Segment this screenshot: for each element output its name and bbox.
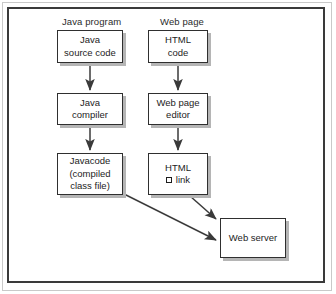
- arrow-htmllink-to-webserver: [190, 196, 216, 219]
- node-line: editor: [166, 109, 190, 122]
- node-html-code: HTML code: [148, 30, 208, 63]
- node-javacode-compiled-class-file: Javacode (compiled class file): [57, 153, 123, 195]
- node-line: HTML: [165, 34, 191, 47]
- node-html-link: HTML link: [148, 153, 208, 195]
- node-line: class file): [70, 180, 110, 193]
- node-line: code: [168, 47, 189, 60]
- column-label-web-page: Web page: [160, 16, 204, 27]
- node-web-page-editor: Web page editor: [148, 93, 208, 125]
- node-java-source-code: Java source code: [57, 30, 123, 63]
- node-line: Javacode: [70, 155, 111, 168]
- node-line: (compiled: [69, 168, 110, 181]
- square-bullet-icon: [166, 177, 172, 183]
- html-link-label: link: [176, 174, 190, 187]
- column-label-java-program: Java program: [62, 16, 121, 27]
- node-line: source code: [64, 47, 116, 60]
- node-line: Java: [80, 97, 100, 110]
- node-line: Web page: [156, 97, 199, 110]
- diagram-canvas: Java program Web page Java source code H…: [0, 0, 336, 294]
- node-line: compiler: [72, 109, 108, 122]
- node-line: Java: [80, 34, 100, 47]
- diagram-figure: Java program Web page Java source code H…: [0, 0, 336, 294]
- node-java-compiler: Java compiler: [57, 93, 123, 125]
- node-web-server: Web server: [220, 218, 286, 258]
- node-line: HTML: [165, 162, 191, 175]
- arrow-javacode-to-webserver: [124, 194, 216, 240]
- node-line: Web server: [229, 232, 277, 245]
- html-link-row: link: [166, 174, 190, 187]
